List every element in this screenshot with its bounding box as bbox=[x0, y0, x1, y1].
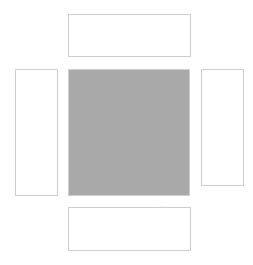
panel-left-background bbox=[15, 69, 57, 195]
panel-bottom-background bbox=[68, 207, 190, 250]
panel-right-background bbox=[201, 69, 243, 185]
panel-frames bbox=[15, 14, 244, 251]
tessellation-diagram bbox=[0, 0, 253, 265]
panel-center-background bbox=[68, 69, 189, 195]
panel-top-background bbox=[68, 14, 190, 56]
